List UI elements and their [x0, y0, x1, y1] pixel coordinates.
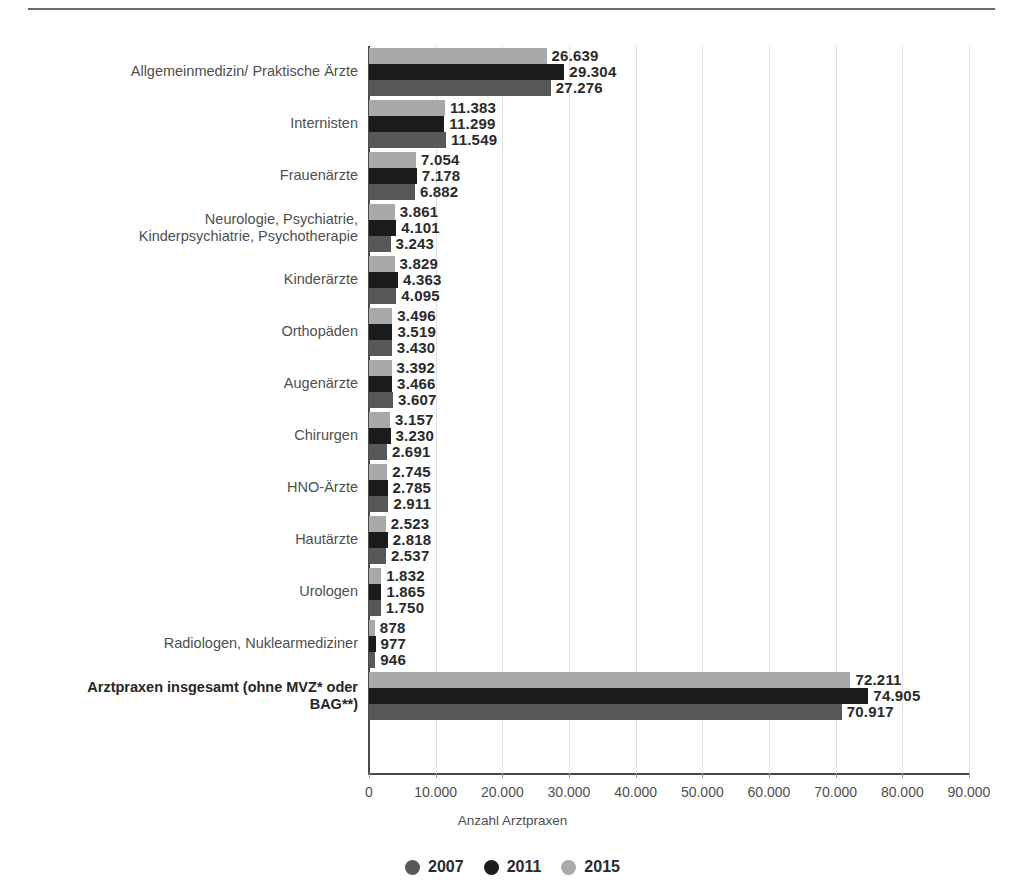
bar-2015: [369, 516, 386, 532]
bar-2015: [369, 100, 445, 116]
category-label: Augenärzte: [40, 375, 358, 393]
category-label: HNO-Ärzte: [40, 479, 358, 497]
tick-mark: [569, 773, 570, 778]
bar-value-label: 11.549: [451, 132, 497, 148]
bar-group: 26.63929.30427.276: [369, 48, 969, 96]
bar-2007: [369, 340, 392, 356]
bar-2015: [369, 256, 395, 272]
bar-value-label: 3.466: [397, 376, 436, 392]
bar-value-label: 3.496: [397, 308, 436, 324]
category-label: Orthopäden: [40, 323, 358, 341]
bar-value-label: 3.157: [395, 412, 434, 428]
bar-2015: [369, 672, 850, 688]
bar-2011: [369, 64, 564, 80]
bar-2007: [369, 392, 393, 408]
bar-value-label: 2.745: [392, 464, 431, 480]
bar-2007: [369, 236, 391, 252]
bar-2011: [369, 220, 396, 236]
bar-2015: [369, 464, 387, 480]
bar-group: 1.8321.8651.750: [369, 568, 969, 616]
legend-dot-icon: [405, 860, 420, 875]
bar-2007: [369, 80, 551, 96]
bar-value-label: 3.392: [397, 360, 436, 376]
bar-value-label: 1.750: [386, 600, 425, 616]
bar-value-label: 3.230: [396, 428, 435, 444]
bar-value-label: 29.304: [569, 64, 616, 80]
bar-2015: [369, 412, 390, 428]
bar-2011: [369, 272, 398, 288]
bar-value-label: 977: [381, 636, 407, 652]
bar-2007: [369, 132, 446, 148]
bar-2015: [369, 308, 392, 324]
tick-mark: [836, 773, 837, 778]
bar-2007: [369, 600, 381, 616]
bar-value-label: 2.818: [393, 532, 432, 548]
category-label: Allgemeinmedizin/ Praktische Ärzte: [40, 63, 358, 81]
tick-mark: [702, 773, 703, 778]
bar-value-label: 72.211: [855, 672, 901, 688]
bar-value-label: 2.911: [393, 496, 431, 512]
category-label: Hautärzte: [40, 531, 358, 549]
bar-value-label: 2.523: [391, 516, 430, 532]
bar-value-label: 70.917: [847, 704, 894, 720]
bar-value-label: 3.861: [400, 204, 439, 220]
bar-group: 3.4963.5193.430: [369, 308, 969, 356]
bar-2015: [369, 48, 547, 64]
bar-value-label: 7.054: [421, 152, 460, 168]
legend-label: 2011: [507, 858, 542, 876]
bar-2015: [369, 204, 395, 220]
bar-group: 878977946: [369, 620, 969, 668]
bar-value-label: 2.785: [393, 480, 432, 496]
bar-2011: [369, 428, 391, 444]
x-axis-label: Anzahl Arztpraxen: [0, 813, 1025, 828]
category-label: Urologen: [40, 583, 358, 601]
category-label: Neurologie, Psychiatrie, Kinderpsychiatr…: [40, 211, 358, 246]
legend-dot-icon: [561, 860, 576, 875]
bar-2011: [369, 376, 392, 392]
bar-value-label: 11.383: [450, 100, 496, 116]
tick-mark: [369, 773, 370, 778]
bar-2007: [369, 496, 388, 512]
bar-2015: [369, 568, 381, 584]
bar-value-label: 3.243: [396, 236, 435, 252]
bar-chart: 26.63929.30427.27611.38311.29911.5497.05…: [0, 0, 1025, 885]
bar-group: 7.0547.1786.882: [369, 152, 969, 200]
bar-value-label: 11.299: [449, 116, 495, 132]
bar-value-label: 27.276: [556, 80, 603, 96]
bar-value-label: 6.882: [420, 184, 459, 200]
bar-group: 3.8614.1013.243: [369, 204, 969, 252]
bar-2015: [369, 152, 416, 168]
bar-2011: [369, 168, 417, 184]
bar-group: 2.7452.7852.911: [369, 464, 969, 512]
bar-value-label: 7.178: [422, 168, 461, 184]
bar-value-label: 74.905: [873, 688, 920, 704]
bar-value-label: 4.095: [401, 288, 440, 304]
bar-value-label: 3.430: [397, 340, 436, 356]
tick-mark: [902, 773, 903, 778]
bar-value-label: 26.639: [552, 48, 599, 64]
bar-2011: [369, 116, 444, 132]
bar-group: 2.5232.8182.537: [369, 516, 969, 564]
category-label: Frauenärzte: [40, 167, 358, 185]
category-label: Kinderärzte: [40, 271, 358, 289]
bar-2015: [369, 360, 392, 376]
bar-2015: [369, 620, 375, 636]
bar-2011: [369, 480, 388, 496]
bar-group: 11.38311.29911.549: [369, 100, 969, 148]
bar-value-label: 3.519: [397, 324, 436, 340]
bar-2011: [369, 532, 388, 548]
chart-legend: 200720112015: [0, 858, 1025, 876]
category-label: Internisten: [40, 115, 358, 133]
bar-value-label: 2.537: [391, 548, 430, 564]
bar-value-label: 2.691: [392, 444, 431, 460]
legend-item-2007: 2007: [405, 858, 464, 876]
bar-value-label: 3.829: [400, 256, 439, 272]
bar-2011: [369, 324, 392, 340]
bar-value-label: 4.101: [401, 220, 440, 236]
bar-value-label: 946: [380, 652, 406, 668]
tick-mark: [636, 773, 637, 778]
tick-mark: [969, 773, 970, 778]
bar-group: 3.8294.3634.095: [369, 256, 969, 304]
category-label: Radiologen, Nuklearmediziner: [40, 635, 358, 653]
bar-value-label: 1.865: [386, 584, 425, 600]
